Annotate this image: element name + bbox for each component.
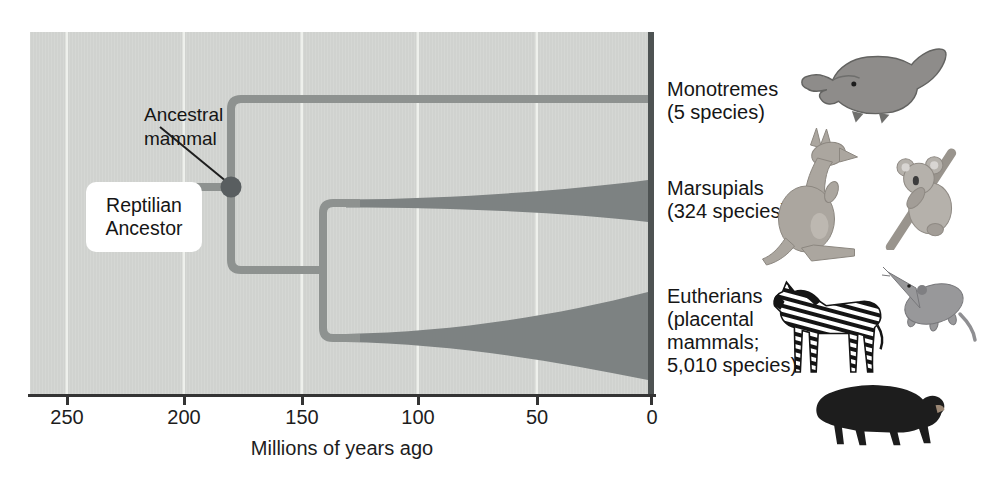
shrew-image	[882, 262, 977, 342]
plot-right-border	[648, 32, 654, 394]
x-axis-label-0: 0	[620, 406, 684, 429]
koala-image	[882, 148, 964, 250]
monotreme-main-branch	[231, 99, 648, 270]
ancestral-mammal-label-line1: Ancestral	[144, 103, 223, 127]
x-axis-tick-150	[301, 397, 304, 405]
kangaroo-image	[760, 126, 888, 266]
reptilian-ancestor-box: Reptilian Ancestor	[86, 182, 202, 252]
marsupial-diversity-wedge	[346, 180, 648, 222]
clade-label-monotremes: Monotremes (5 species)	[667, 78, 778, 124]
x-axis-tick-200	[183, 397, 186, 405]
x-axis-line	[28, 394, 656, 397]
ancestral-mammal-label-line2: mammal	[144, 127, 223, 151]
gridline-150	[301, 32, 304, 394]
x-axis-title: Millions of years ago	[192, 437, 492, 460]
x-axis-tick-0	[650, 397, 653, 405]
x-axis-label-50: 50	[505, 406, 569, 429]
plot-area: Ancestral mammal Reptilian Ancestor	[30, 32, 654, 394]
x-axis-label-250: 250	[35, 406, 99, 429]
x-axis-label-200: 200	[152, 406, 216, 429]
reptilian-ancestor-line1: Reptilian	[106, 194, 182, 217]
gridline-250	[66, 32, 69, 394]
bear-image	[808, 375, 953, 453]
platypus-image	[798, 34, 952, 134]
x-axis-tick-50	[536, 397, 539, 405]
monotremes-species-count: (5 species)	[667, 101, 778, 124]
x-axis-tick-250	[66, 397, 69, 405]
x-axis-label-150: 150	[270, 406, 334, 429]
x-axis-label-100: 100	[386, 406, 450, 429]
x-axis-tick-100	[417, 397, 420, 405]
eutherian-diversity-wedge	[346, 292, 648, 380]
zebra-image	[770, 276, 900, 380]
ancestral-mammal-node	[221, 177, 242, 198]
monotremes-name: Monotremes	[667, 78, 778, 101]
mammal-phylogeny-figure: Ancestral mammal Reptilian Ancestor 250 …	[0, 0, 984, 487]
ancestral-mammal-label: Ancestral mammal	[144, 103, 223, 151]
marsupial-eutherian-split-branch	[323, 203, 360, 338]
reptilian-ancestor-line2: Ancestor	[106, 217, 183, 240]
